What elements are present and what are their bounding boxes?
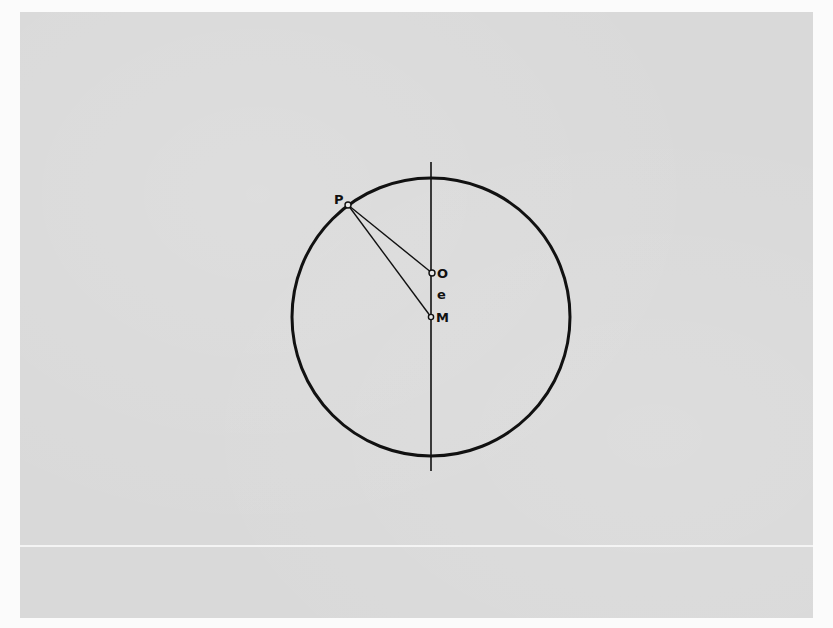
label-eccentricity-e: e xyxy=(437,287,446,302)
label-p: P xyxy=(334,192,344,207)
geometry-diagram: P O M e xyxy=(0,0,833,628)
segment-p-m xyxy=(348,205,431,317)
label-o: O xyxy=(437,266,448,281)
point-m-marker xyxy=(428,314,433,319)
point-p-marker xyxy=(345,202,351,208)
point-o-marker xyxy=(429,270,435,276)
label-m: M xyxy=(436,310,449,325)
